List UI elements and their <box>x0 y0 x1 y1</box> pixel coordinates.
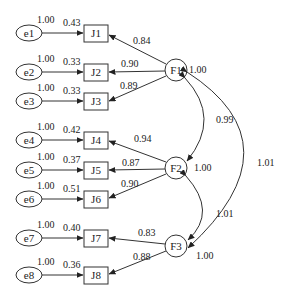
error-variance: 1.00 <box>37 122 55 132</box>
factor-label: F3 <box>165 241 187 252</box>
indicator-label: J8 <box>84 270 108 281</box>
error-loading: 0.40 <box>63 223 81 233</box>
factor-label: F2 <box>165 163 187 174</box>
covariance-F1-F2: 0.99 <box>216 115 234 125</box>
indicator-label: J6 <box>84 194 108 205</box>
error-label: e6 <box>19 194 39 205</box>
error-label: e2 <box>19 67 39 78</box>
factor-variance: 1.00 <box>189 65 207 75</box>
error-loading: 0.37 <box>63 155 81 165</box>
indicator-label: J7 <box>84 233 108 244</box>
covariance-F2-F3: 1.01 <box>216 209 234 219</box>
indicator-label: J5 <box>84 165 108 176</box>
error-label: e8 <box>19 270 39 281</box>
error-loading: 0.33 <box>63 86 81 96</box>
indicator-label: J2 <box>84 67 108 78</box>
error-label: e7 <box>19 233 39 244</box>
factor-loading: 0.84 <box>133 36 151 46</box>
error-variance: 1.00 <box>37 83 55 93</box>
error-variance: 1.00 <box>37 181 55 191</box>
error-label: e5 <box>19 165 39 176</box>
indicator-label: J4 <box>84 135 108 146</box>
error-loading: 0.33 <box>63 57 81 67</box>
indicator-label: J3 <box>84 96 108 107</box>
path-diagram: e1 e2 e3 e4 e5 e6 e7 e8 J1 J2 J3 J4 J5 J… <box>0 0 291 303</box>
factor-variance: 1.00 <box>196 251 214 261</box>
error-variance: 1.00 <box>37 15 55 25</box>
factor-loading: 0.87 <box>122 158 140 168</box>
error-loading: 0.51 <box>63 184 81 194</box>
factor-loading: 0.90 <box>121 179 139 189</box>
factor-loading: 0.90 <box>121 59 139 69</box>
error-variance: 1.00 <box>37 257 55 267</box>
error-label: e3 <box>19 96 39 107</box>
error-loading: 0.43 <box>63 18 81 28</box>
error-loading: 0.36 <box>63 260 81 270</box>
covariance-F1-F3: 1.01 <box>257 158 275 168</box>
error-loading: 0.42 <box>63 125 81 135</box>
error-variance: 1.00 <box>37 152 55 162</box>
error-variance: 1.00 <box>37 220 55 230</box>
factor-label: F1 <box>165 65 187 76</box>
factor-loading: 0.94 <box>134 134 152 144</box>
factor-loading: 0.89 <box>120 81 138 91</box>
indicator-label: J1 <box>84 28 108 39</box>
factor-variance: 1.00 <box>194 163 212 173</box>
error-label: e1 <box>19 28 39 39</box>
factor-loading: 0.88 <box>133 252 151 262</box>
error-variance: 1.00 <box>37 54 55 64</box>
factor-loading: 0.83 <box>138 228 156 238</box>
error-label: e4 <box>19 135 39 146</box>
